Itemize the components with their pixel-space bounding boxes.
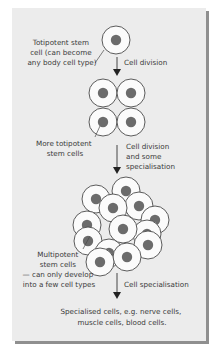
label-step3: Cell specialisation: [124, 280, 189, 289]
label-step2: Cell division and some specialisation: [126, 142, 175, 171]
arrow-division-specialisation: [113, 145, 121, 174]
label-more-totipotent: More totipotent stem cells: [36, 139, 94, 158]
multipotent-cell-cluster: [73, 177, 169, 276]
stem-cell-diagram: Totipotent stem cell (can become any bod…: [0, 0, 217, 355]
arrow-cell-specialisation: [113, 273, 121, 299]
four-totipotent-cells: [89, 79, 145, 136]
label-totipotent: Totipotent stem cell (can become any bod…: [27, 38, 96, 67]
label-multipotent: Multipotent stem cells — can only develo…: [22, 250, 95, 289]
label-step1: Cell division: [124, 58, 167, 67]
label-specialised: Specialised cells, e.g. nerve cells, mus…: [60, 307, 183, 327]
arrow-cell-division: [113, 57, 121, 76]
totipotent-cell: [102, 26, 130, 54]
